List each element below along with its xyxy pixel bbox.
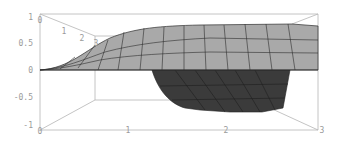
z-tick-0.5: 0.5 [19, 39, 34, 48]
y-axis-labels: 0 1 2 3 [38, 16, 99, 48]
z-axis-labels: 1 0.5 0 -0.5 -1 [14, 13, 33, 130]
y-tick-1: 1 [62, 27, 67, 36]
y-tick-3: 3 [94, 39, 99, 48]
surface-plot: 1 0.5 0 -0.5 -1 0 1 2 3 0 1 2 3 [0, 0, 338, 142]
z-tick-minus-0.5: -0.5 [14, 93, 33, 102]
z-tick-1: 1 [28, 13, 33, 22]
z-tick-0: 0 [28, 66, 33, 75]
z-tick-minus-1: -1 [23, 121, 33, 130]
y-tick-0: 0 [38, 16, 43, 25]
x-tick-3: 3 [320, 126, 325, 135]
lower-surface [152, 70, 290, 112]
x-tick-2: 2 [224, 126, 229, 135]
y-tick-2: 2 [80, 34, 85, 43]
x-tick-0: 0 [38, 127, 43, 136]
x-tick-1: 1 [126, 126, 131, 135]
x-axis-labels: 0 1 2 3 [38, 126, 325, 136]
